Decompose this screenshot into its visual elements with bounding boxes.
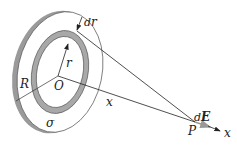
- x-axis-arrow: [208, 126, 220, 131]
- charged-disk-diagram: dr r R O x σ P dE x: [0, 0, 237, 151]
- label-dE: dE: [194, 110, 211, 124]
- label-R: R: [19, 77, 29, 91]
- label-x: x: [106, 95, 113, 109]
- label-P: P: [187, 124, 197, 138]
- label-sigma: σ: [46, 116, 55, 130]
- label-dr: dr: [84, 15, 98, 29]
- label-x-axis: x: [224, 126, 231, 140]
- label-O: O: [54, 79, 64, 93]
